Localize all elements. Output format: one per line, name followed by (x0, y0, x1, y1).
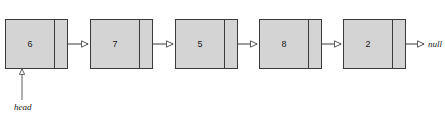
node-data-cell: 6 (6, 20, 54, 68)
node-value-text: 2 (365, 40, 370, 49)
node-value-text: 8 (281, 40, 286, 49)
node-data-cell: 7 (91, 20, 139, 68)
list-node: 7 (90, 19, 153, 69)
node-pointer-divider (224, 19, 225, 69)
null-terminator-label: null (428, 40, 442, 49)
node-value-text: 6 (27, 40, 32, 49)
node-data-cell: 2 (344, 20, 392, 68)
list-node: 5 (175, 19, 238, 69)
list-node: 8 (259, 19, 322, 69)
node-data-cell: 8 (260, 20, 308, 68)
node-value-text: 7 (112, 40, 117, 49)
node-pointer-divider (139, 19, 140, 69)
node-pointer-divider (392, 19, 393, 69)
node-data-cell: 5 (176, 20, 224, 68)
linked-list-diagram: 67582 null head (0, 0, 445, 123)
node-value-text: 5 (197, 40, 202, 49)
node-pointer-divider (308, 19, 309, 69)
head-pointer-label: head (14, 103, 32, 112)
list-node: 6 (5, 19, 68, 69)
list-node: 2 (343, 19, 406, 69)
node-pointer-divider (54, 19, 55, 69)
